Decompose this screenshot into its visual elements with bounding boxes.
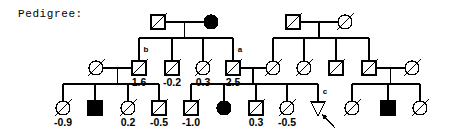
individual-iii-6-circle-affected[interactable]: [217, 101, 231, 115]
measurement-value-ii-3: -0.2: [163, 76, 181, 88]
individual-i-2-circle-affected[interactable]: [204, 15, 218, 29]
pedigree-diagram: Pedigree: 1.6-0.20.32.5-0.90.2-0.5-1.00.…: [0, 0, 449, 138]
label-c: c: [323, 87, 328, 96]
measurement-value-ii-5: 2.5: [226, 76, 241, 88]
pedigree-canvas: 1.6-0.20.32.5-0.90.2-0.5-1.00.3-0.5bac: [0, 0, 449, 138]
measurement-value-iii-4: -0.5: [150, 116, 168, 128]
measurement-value-iii-5: -1.0: [182, 116, 200, 128]
individual-iii-2-square-affected[interactable]: [88, 101, 102, 115]
label-a: a: [238, 45, 243, 54]
measurement-value-iii-7: 0.3: [249, 116, 264, 128]
measurement-value-ii-4: 0.3: [196, 76, 211, 88]
measurement-value-iii-3: 0.2: [121, 116, 136, 128]
measurement-value-iii-1: -0.9: [54, 116, 72, 128]
measurement-value-ii-2: 1.6: [132, 76, 147, 88]
individual-iii-11-square-affected[interactable]: [381, 101, 395, 115]
measurement-value-iii-8: -0.5: [278, 116, 296, 128]
individual-iii-9-triangle-unaffected[interactable]: [311, 102, 325, 116]
individual-symbols: [55, 14, 429, 129]
label-b: b: [144, 45, 149, 54]
